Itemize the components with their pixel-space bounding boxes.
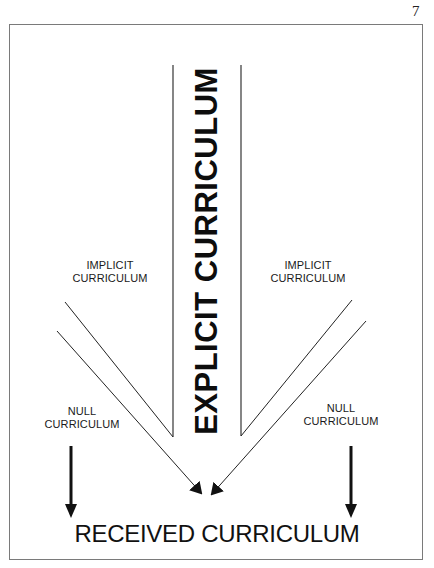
null-right-line1: NULL xyxy=(299,402,383,415)
implicit-curriculum-left-label: IMPLICIT CURRICULUM xyxy=(60,259,160,285)
implicit-right-line2: CURRICULUM xyxy=(258,272,358,285)
null-right-line2: CURRICULUM xyxy=(299,415,383,428)
left-implicit-channel xyxy=(57,302,201,493)
implicit-left-line1: IMPLICIT xyxy=(60,259,160,272)
implicit-curriculum-right-label: IMPLICIT CURRICULUM xyxy=(258,259,358,285)
implicit-left-line2: CURRICULUM xyxy=(60,272,160,285)
null-right-arrow xyxy=(345,446,357,518)
null-curriculum-right-label: NULL CURRICULUM xyxy=(299,402,383,428)
implicit-right-line1: IMPLICIT xyxy=(258,259,358,272)
null-curriculum-left-label: NULL CURRICULUM xyxy=(40,405,124,431)
null-left-line1: NULL xyxy=(40,405,124,418)
received-curriculum-label: RECEIVED CURRICULUM xyxy=(0,520,434,548)
right-implicit-channel xyxy=(212,300,366,494)
null-left-line2: CURRICULUM xyxy=(40,418,124,431)
null-left-arrow xyxy=(65,446,77,518)
explicit-curriculum-label: EXPLICIT CURRICULUM xyxy=(189,67,225,435)
